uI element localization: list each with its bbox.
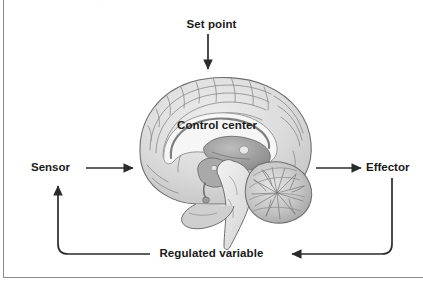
brain-illustration [0, 0, 423, 282]
figure-root: · · · · · · [0, 0, 423, 282]
label-sensor: Sensor [31, 162, 70, 174]
cerebral-cortex [140, 77, 312, 250]
label-regulated-variable: Regulated variable [0, 248, 423, 260]
label-control-center: Control center [177, 120, 257, 132]
label-set-point: Set point [0, 19, 423, 31]
label-effector: Effector [366, 162, 409, 174]
